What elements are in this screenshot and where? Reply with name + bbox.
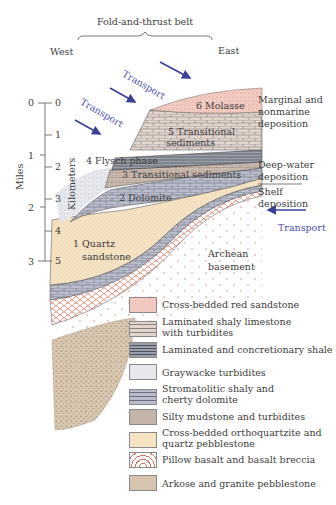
transport-arrow-middle: [110, 88, 135, 102]
basement-label-line2: basement: [208, 261, 255, 272]
miles-tick-0: 0: [28, 97, 34, 108]
legend-label: Pillow basalt and basalt breccia: [162, 454, 315, 465]
shaly-limestone-swatch-icon: [129, 321, 157, 337]
legend-label: with turbidites: [162, 327, 233, 338]
graywacke-swatch-icon: [129, 364, 157, 380]
km-tick-0: 0: [55, 97, 61, 108]
deep-water-label-line2: deposition: [258, 171, 308, 182]
deep-water-label-line1: Deep-water: [258, 159, 314, 170]
legend-label: Arkose and granite pebblestone: [162, 478, 316, 489]
east-label: East: [218, 45, 239, 56]
miles-tick-2: 2: [28, 202, 34, 213]
unit-5-label-line1: 5 Transitional: [168, 126, 235, 137]
diagram-title: Fold-and-thrust belt: [97, 16, 193, 27]
marginal-label-line1: Marginal and: [258, 94, 323, 105]
legend-label: Cross-bedded orthoquartzite and: [162, 427, 322, 438]
shale-swatch-icon: [129, 342, 157, 358]
scale-bar: [38, 103, 52, 261]
km-tick-3: 3: [55, 193, 61, 204]
arkose-layer: [52, 318, 135, 430]
miles-tick-3: 3: [28, 256, 34, 267]
miles-tick-1: 1: [28, 150, 34, 161]
legend-label: Silty mudstone and turbidites: [162, 411, 305, 422]
unit-2-label: 2 Dolomite: [119, 192, 172, 203]
unit-1-label-line2: sandstone: [82, 251, 131, 262]
unit-1-label-line1: 1 Quartz: [73, 238, 115, 249]
unit-5-label-line2: sediments: [166, 137, 215, 148]
legend-label: Laminated shaly limestone: [162, 316, 291, 327]
legend-label: quartz pebblestone: [162, 438, 255, 449]
shelf-label-line1: Shelf: [258, 186, 283, 197]
miles-label: Miles: [14, 164, 25, 190]
west-label: West: [50, 46, 73, 57]
dolomite-swatch-icon: [129, 389, 157, 405]
mudstone-swatch-icon: [129, 409, 157, 425]
legend-label: Stromatolitic shaly and: [162, 383, 274, 394]
shelf-label-line2: deposition: [258, 198, 308, 209]
unit-6-label: 6 Molasse: [196, 100, 245, 111]
red-sandstone-swatch-icon: [129, 297, 157, 313]
km-tick-4: 4: [55, 225, 61, 236]
km-tick-1: 1: [55, 129, 61, 140]
legend-label: Laminated and concretionary shale: [162, 344, 332, 355]
legend-label: Cross-bedded red sandstone: [162, 299, 299, 310]
arkose-swatch-icon: [129, 475, 157, 491]
legend-label: cherty dolomite: [162, 394, 238, 405]
marginal-label-line3: deposition: [258, 118, 308, 129]
transport-label-right: Transport: [278, 222, 326, 233]
fold-thrust-brace: [78, 32, 212, 40]
transport-arrow-upper: [160, 62, 190, 78]
unit-4-label: 4 Flysch phase: [86, 155, 158, 166]
transport-arrow-lower: [75, 120, 100, 134]
marginal-label-line2: nonmarine: [258, 106, 310, 117]
basement-label-line1: Archean: [208, 248, 248, 259]
km-tick-5: 5: [55, 255, 61, 266]
pillow-basalt-swatch-icon: [129, 452, 157, 468]
unit-3-label: 3 Transitional sediments: [122, 169, 241, 180]
orthoquartzite-swatch-icon: [129, 432, 157, 448]
km-tick-2: 2: [55, 161, 61, 172]
legend-label: Graywacke turbidites: [162, 367, 266, 378]
km-label: Kilometers: [66, 158, 77, 210]
